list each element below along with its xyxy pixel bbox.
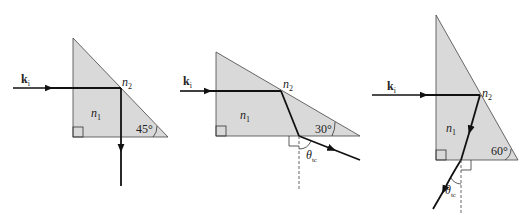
incident-label: ki <box>21 72 31 88</box>
prism-60 <box>436 15 518 160</box>
n2-label: n2 <box>482 86 492 102</box>
panel-45: ki n2 n1 45° <box>13 38 168 186</box>
panel-30: ki n2 n1 30° θtc <box>180 52 360 190</box>
theta-arc <box>451 178 461 184</box>
prism-30 <box>216 52 360 136</box>
n2-label: n2 <box>122 75 132 91</box>
angle-label: 30° <box>315 122 332 136</box>
refracted-ray <box>299 136 332 149</box>
angle-label: 60° <box>491 144 508 158</box>
normal-right-angle-mark <box>289 136 299 146</box>
normal-right-angle-mark <box>461 160 471 170</box>
incident-label: ki <box>387 79 397 95</box>
panel-60: ki n2 n1 60° θtc <box>372 15 518 214</box>
n2-label: n2 <box>283 77 293 93</box>
exit-ray <box>433 190 444 209</box>
exit-ray <box>332 149 360 160</box>
angle-label: 45° <box>136 122 153 136</box>
theta-label: θtc <box>306 148 317 164</box>
prism-diagram: ki n2 n1 45° ki n2 n1 30° θtc <box>0 0 532 222</box>
theta-label: θtc <box>445 183 456 199</box>
incident-label: ki <box>183 74 193 90</box>
